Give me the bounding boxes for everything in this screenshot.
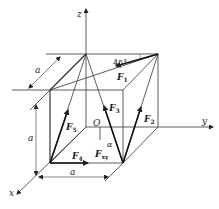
origin-label: O bbox=[93, 118, 101, 128]
dim-depth bbox=[29, 57, 60, 88]
angle-alpha-label: α bbox=[107, 140, 113, 149]
z-axis-label: z bbox=[76, 9, 82, 19]
F3-label: F3 bbox=[108, 103, 120, 114]
y-axis-label: y bbox=[201, 116, 208, 126]
force-F2 bbox=[123, 107, 141, 163]
F5-label: F5 bbox=[65, 122, 77, 133]
angle-45-arc bbox=[140, 54, 141, 59]
angle-45-label: 45° bbox=[113, 58, 127, 67]
F4-label: F4 bbox=[71, 151, 83, 162]
force-F5 bbox=[50, 110, 68, 163]
F1-label: F1 bbox=[116, 72, 128, 83]
force-cube-diagram: z y x O a a a 45° α F1 F2 F3 F4 F5 Fxy bbox=[0, 0, 219, 209]
dim-width-label: a bbox=[70, 167, 75, 177]
axes bbox=[17, 9, 213, 194]
dim-height-label: a bbox=[28, 133, 33, 143]
Fxy-label: Fxy bbox=[94, 149, 109, 161]
cube-edges bbox=[12, 54, 158, 181]
diagram-canvas: z y x O a a a 45° α F1 F2 F3 F4 F5 Fxy bbox=[0, 0, 219, 209]
x-axis-label: x bbox=[9, 188, 14, 198]
F2-label: F2 bbox=[143, 114, 155, 125]
dim-depth-label: a bbox=[35, 65, 40, 75]
labels: z y x O a a a 45° α F1 F2 F3 F4 F5 Fxy bbox=[9, 9, 208, 198]
